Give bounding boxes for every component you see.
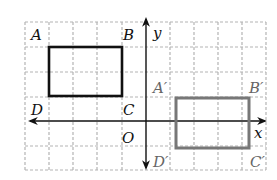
label-d-prime: D′ bbox=[152, 153, 169, 171]
label-b-prime: B′ bbox=[248, 79, 264, 97]
rectangle-a-prime-b-prime-c-prime-d-prime bbox=[176, 98, 249, 148]
label-a: A bbox=[29, 26, 42, 44]
label-d: D bbox=[30, 101, 43, 119]
label-c-prime: C′ bbox=[250, 153, 265, 171]
label-c: C bbox=[123, 101, 135, 119]
label-b: B bbox=[122, 26, 134, 44]
coordinate-diagram: A B C D y x O A′ B′ C′ D′ bbox=[0, 0, 277, 180]
x-axis-label: x bbox=[254, 124, 263, 142]
origin-label: O bbox=[122, 129, 134, 147]
y-axis-label: y bbox=[152, 24, 162, 42]
label-a-prime: A′ bbox=[151, 79, 168, 97]
